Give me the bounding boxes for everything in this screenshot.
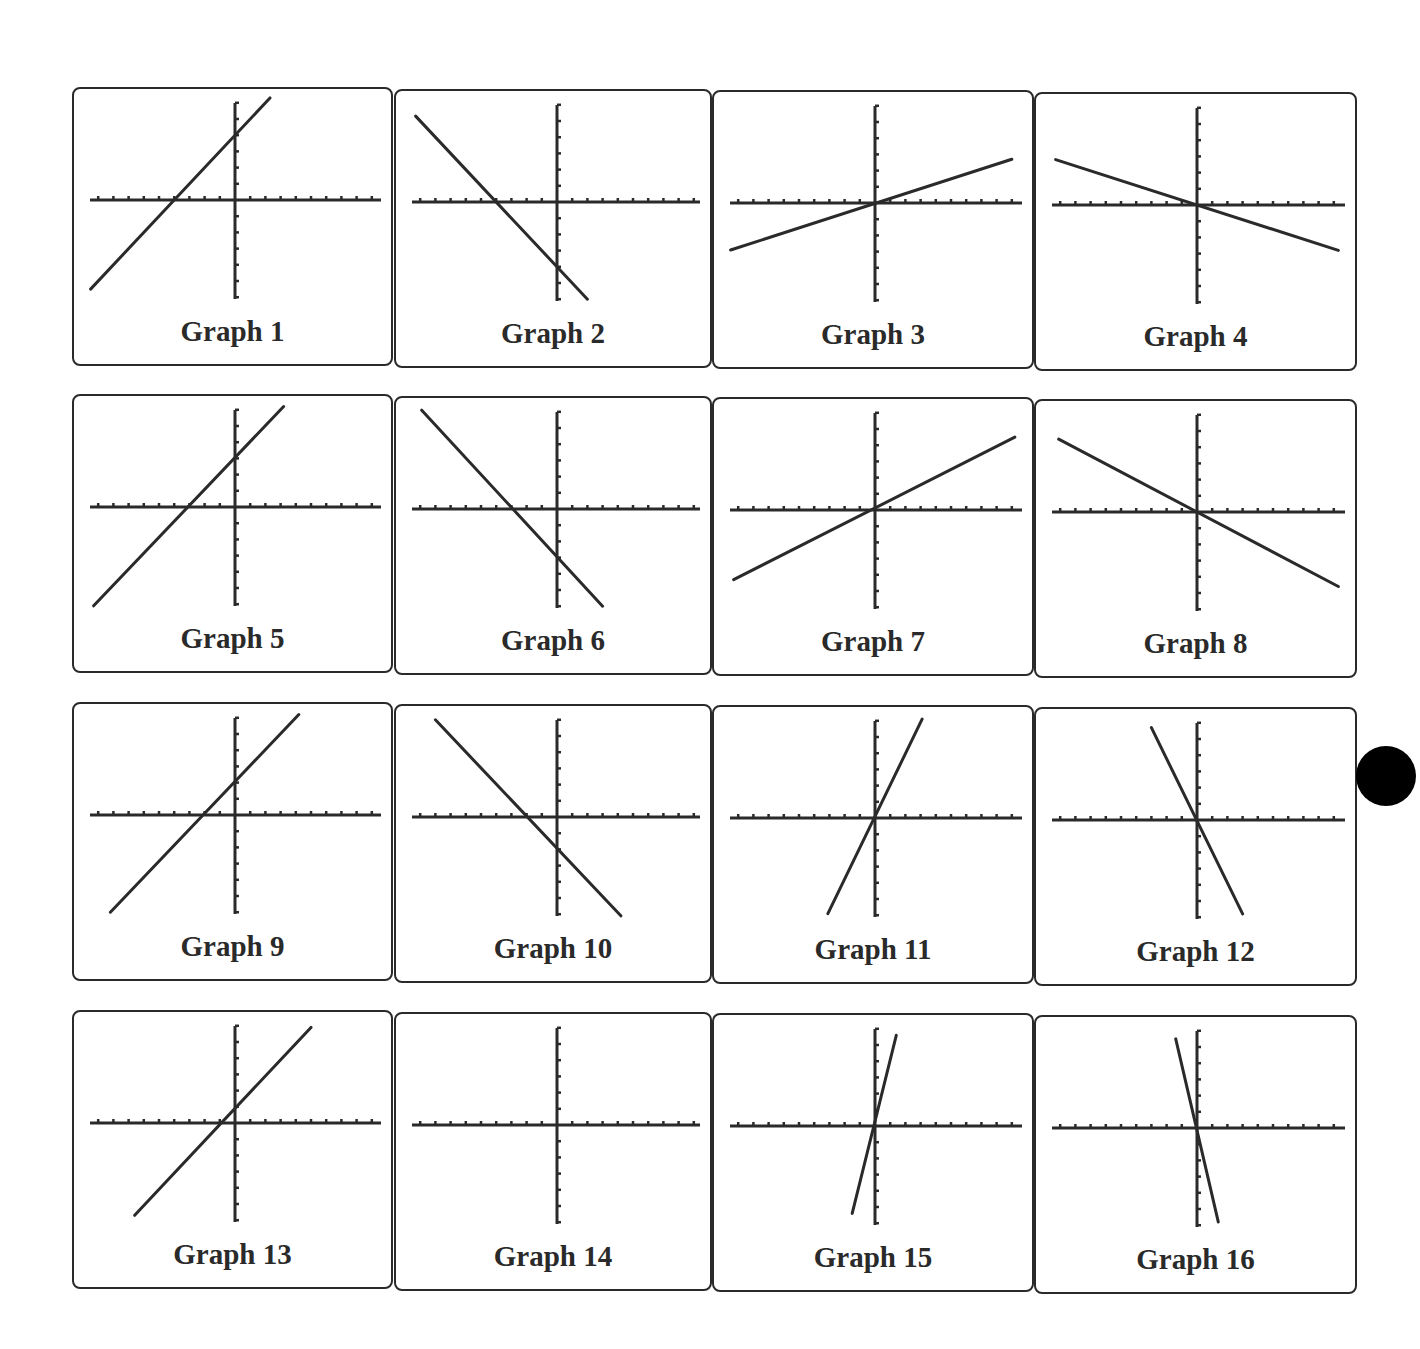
graph-plot xyxy=(396,398,714,613)
graph-label: Graph 2 xyxy=(396,317,710,350)
graph-plot xyxy=(1036,94,1359,309)
graph-plot xyxy=(396,1014,714,1229)
graph-card: Graph 3 xyxy=(712,90,1034,369)
graph-plot xyxy=(714,1015,1036,1230)
graph-label: Graph 5 xyxy=(74,622,391,655)
graph-plot xyxy=(396,91,714,306)
graph-label: Graph 8 xyxy=(1036,627,1355,660)
graph-card: Graph 1 xyxy=(72,87,393,366)
graph-plot xyxy=(74,396,395,611)
graph-card: Graph 6 xyxy=(394,396,712,675)
plotted-line xyxy=(731,159,1012,250)
graph-plot xyxy=(74,89,395,304)
graph-plot xyxy=(714,707,1036,922)
plotted-line xyxy=(91,98,270,289)
graph-plot xyxy=(714,92,1036,307)
graph-label: Graph 13 xyxy=(74,1238,391,1271)
graph-card: Graph 2 xyxy=(394,89,712,368)
graph-card: Graph 12 xyxy=(1034,707,1357,986)
plotted-line xyxy=(110,715,298,913)
graph-card: Graph 16 xyxy=(1034,1015,1357,1294)
graph-card: Graph 8 xyxy=(1034,399,1357,678)
graph-card: Graph 14 xyxy=(394,1012,712,1291)
graph-card: Graph 4 xyxy=(1034,92,1357,371)
graph-card: Graph 10 xyxy=(394,704,712,983)
hole-punch-mark xyxy=(1356,746,1416,806)
graph-plot xyxy=(1036,401,1359,616)
graph-label: Graph 14 xyxy=(396,1240,710,1273)
graph-plot xyxy=(396,706,714,921)
graph-label: Graph 12 xyxy=(1036,935,1355,968)
graph-card: Graph 9 xyxy=(72,702,393,981)
graph-label: Graph 10 xyxy=(396,932,710,965)
graph-label: Graph 6 xyxy=(396,624,710,657)
graph-label: Graph 4 xyxy=(1036,320,1355,353)
graph-label: Graph 7 xyxy=(714,625,1032,658)
graph-label: Graph 11 xyxy=(714,933,1032,966)
graph-plot xyxy=(1036,1017,1359,1232)
graph-card: Graph 11 xyxy=(712,705,1034,984)
graph-plot xyxy=(74,704,395,919)
graph-card: Graph 5 xyxy=(72,394,393,673)
graph-label: Graph 3 xyxy=(714,318,1032,351)
plotted-line xyxy=(416,116,588,299)
graph-label: Graph 16 xyxy=(1036,1243,1355,1276)
graph-plot xyxy=(1036,709,1359,924)
graph-label: Graph 15 xyxy=(714,1241,1032,1274)
graph-plot xyxy=(74,1012,395,1227)
graph-plot xyxy=(714,399,1036,614)
plotted-line xyxy=(135,1027,311,1215)
graph-label: Graph 1 xyxy=(74,315,391,348)
graph-label: Graph 9 xyxy=(74,930,391,963)
graph-card: Graph 7 xyxy=(712,397,1034,676)
graph-card: Graph 15 xyxy=(712,1013,1034,1292)
graph-card: Graph 13 xyxy=(72,1010,393,1289)
